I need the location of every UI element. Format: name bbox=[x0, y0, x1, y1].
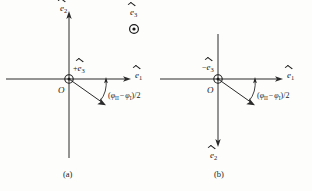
panel-b: e1 e2 −e3 O (φII−φI)/2 (b) bbox=[156, 0, 312, 191]
angle-label-b: (φII−φI)/2 bbox=[257, 92, 289, 100]
angle-label-a: (φII−φI)/2 bbox=[108, 92, 140, 100]
axis-label-e2-a: e2 bbox=[60, 4, 67, 13]
origin-label-b: O bbox=[207, 86, 214, 95]
rotated-vector-line-b bbox=[218, 79, 252, 103]
rotated-vector-line-a bbox=[69, 79, 103, 103]
caption-b: (b) bbox=[214, 170, 224, 179]
standalone-e3-label-a: e3 bbox=[130, 8, 137, 17]
e3-standalone-dot-a bbox=[132, 27, 135, 30]
origin-label-a: O bbox=[58, 86, 65, 95]
figure-root: e2 e1 +e3 e3 O (φII−φI)/2 (a) bbox=[0, 0, 312, 191]
axis-label-e2-b: e2 bbox=[210, 151, 217, 160]
axis-label-e1-a: e1 bbox=[135, 71, 142, 80]
caption-a: (a) bbox=[63, 170, 72, 179]
panel-a: e2 e1 +e3 e3 O (φII−φI)/2 (a) bbox=[0, 0, 156, 191]
out-of-page-label-b: −e3 bbox=[202, 63, 214, 72]
e3-out-of-page-dot-a bbox=[68, 78, 71, 81]
axis-label-e1-b: e1 bbox=[287, 71, 294, 80]
out-of-page-label-a: +e3 bbox=[73, 64, 85, 73]
e3-out-of-page-dot-b bbox=[217, 78, 220, 81]
